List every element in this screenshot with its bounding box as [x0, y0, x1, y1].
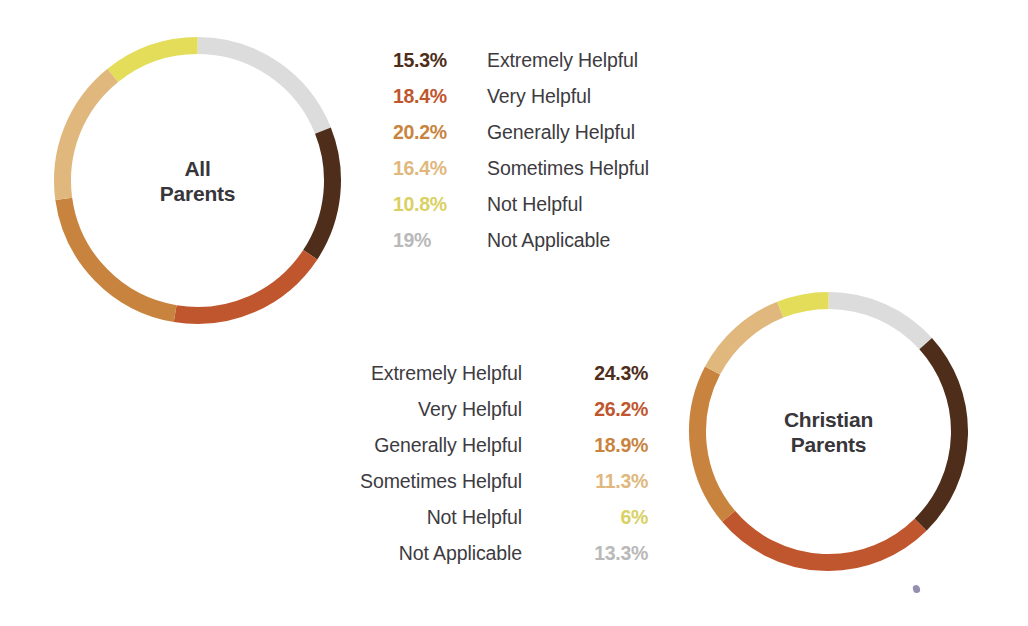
donut-all-parents-svg — [54, 37, 341, 324]
legend-value: 16.4% — [393, 157, 487, 180]
scan-artifact-speck — [912, 584, 921, 593]
legend-value: 6% — [558, 506, 648, 529]
legend-value: 19% — [393, 229, 487, 252]
legend-label: Generally Helpful — [328, 434, 522, 457]
legend-label: Extremely Helpful — [328, 362, 522, 385]
legend-row: 20.2%Generally Helpful — [393, 121, 727, 157]
legend-value: 13.3% — [558, 542, 648, 565]
legend-label: Extremely Helpful — [487, 49, 727, 72]
legend-row: 19%Not Applicable — [393, 229, 727, 265]
donut-slice — [310, 131, 332, 255]
legend-value: 10.8% — [393, 193, 487, 216]
legend-row: Generally Helpful18.9% — [328, 434, 648, 470]
legend-value: 18.4% — [393, 85, 487, 108]
donut-slice — [729, 516, 921, 562]
donut-slice — [198, 46, 323, 131]
legend-row: Very Helpful26.2% — [328, 398, 648, 434]
legend-label: Sometimes Helpful — [328, 470, 522, 493]
donut-chart-christian-parents: Christian Parents — [689, 292, 968, 571]
donut-slice — [113, 46, 198, 76]
donut-slice — [64, 199, 175, 314]
donut-all-parents-slices — [63, 46, 333, 316]
legend-label: Not Helpful — [328, 506, 522, 529]
donut-christian-parents-svg — [689, 292, 968, 571]
donut-slice — [921, 344, 960, 525]
legend-label: Generally Helpful — [487, 121, 727, 144]
legend-value: 18.9% — [558, 434, 648, 457]
legend-value: 11.3% — [558, 470, 648, 493]
donut-slice — [698, 371, 729, 517]
legend-row: Not Applicable13.3% — [328, 542, 648, 578]
legend-label: Not Applicable — [328, 542, 522, 565]
donut-slice — [713, 310, 781, 371]
legend-row: Extremely Helpful24.3% — [328, 362, 648, 398]
chart-canvas: All Parents 15.3%Extremely Helpful18.4%V… — [0, 0, 1028, 626]
donut-slice — [175, 255, 310, 316]
legend-value: 20.2% — [393, 121, 487, 144]
legend-row: 15.3%Extremely Helpful — [393, 49, 727, 85]
donut-slice — [780, 301, 828, 310]
legend-label: Not Helpful — [487, 193, 727, 216]
legend-value: 24.3% — [558, 362, 648, 385]
legend-christian-parents: Extremely Helpful24.3%Very Helpful26.2%G… — [328, 362, 648, 578]
legend-value: 26.2% — [558, 398, 648, 421]
legend-label: Very Helpful — [328, 398, 522, 421]
legend-value: 15.3% — [393, 49, 487, 72]
donut-slice — [829, 301, 926, 344]
donut-chart-all-parents: All Parents — [54, 37, 341, 324]
legend-label: Sometimes Helpful — [487, 157, 727, 180]
legend-row: Sometimes Helpful11.3% — [328, 470, 648, 506]
legend-row: 18.4%Very Helpful — [393, 85, 727, 121]
legend-row: 10.8%Not Helpful — [393, 193, 727, 229]
legend-label: Very Helpful — [487, 85, 727, 108]
legend-row: Not Helpful6% — [328, 506, 648, 542]
donut-slice — [63, 75, 113, 199]
legend-label: Not Applicable — [487, 229, 727, 252]
legend-row: 16.4%Sometimes Helpful — [393, 157, 727, 193]
legend-all-parents: 15.3%Extremely Helpful18.4%Very Helpful2… — [393, 49, 727, 265]
donut-christian-parents-slices — [698, 301, 960, 563]
